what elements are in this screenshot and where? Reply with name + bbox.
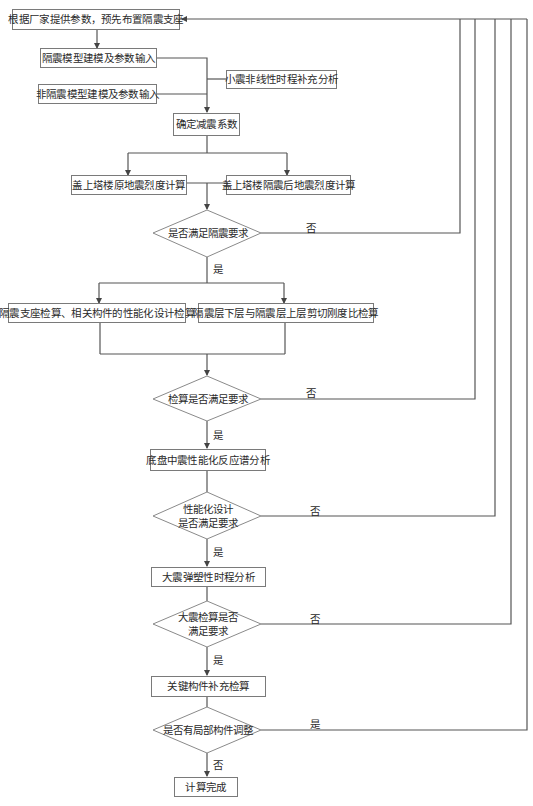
decision-5-text: 是否有局部构件调整 — [163, 723, 253, 737]
node-damping-coefficient: 确定减震系数 — [173, 113, 240, 136]
node-key-member-check: 关键构件补充检算 — [151, 676, 266, 697]
label-no-4: 否 — [310, 611, 320, 626]
node-iso-model: 隔震模型建模及参数输入 — [40, 48, 157, 68]
node-original-intensity: 盖上塔楼原地震烈度计算 — [71, 175, 187, 195]
decision-4-line2: 满足要求 — [178, 624, 238, 638]
node-isolated-intensity: 盖上塔楼隔震后地震烈度计算 — [226, 175, 351, 195]
label-no-1: 否 — [306, 220, 316, 235]
label-no-3: 否 — [310, 503, 320, 518]
connector-lines — [0, 0, 533, 806]
label-yes-4: 是 — [213, 652, 223, 667]
decision-3-text: 性能化设计 是否满足要求 — [178, 502, 238, 530]
decision-1-text: 是否满足隔震要求 — [168, 226, 248, 240]
node-stiffness-ratio-check: 隔震层下层与隔震层上层剪切刚度比检算 — [198, 303, 374, 323]
node-bearing-check: 隔震支座检算、相关构件的性能化设计检算 — [8, 303, 186, 323]
node-large-eq-analysis: 大震弹塑性时程分析 — [151, 567, 266, 587]
label-yes-1: 是 — [213, 261, 223, 276]
label-yes-2: 是 — [213, 427, 223, 442]
decision-3-line1: 性能化设计 — [178, 502, 238, 516]
node-small-eq-analysis: 小震非线性时程补充分析 — [226, 70, 337, 89]
node-start: 根据厂家提供参数，预先布置隔震支座 — [12, 9, 180, 30]
label-no-2: 否 — [306, 385, 316, 400]
label-yes-5: 是 — [310, 716, 320, 731]
label-no-5: 否 — [213, 757, 223, 772]
decision-2-text: 检算是否满足要求 — [168, 392, 248, 406]
node-mid-eq-analysis: 底盘中震性能化反应谱分析 — [150, 449, 266, 471]
decision-4-text: 大震检算是否 满足要求 — [178, 610, 238, 638]
node-noniso-model: 非隔震模型建模及参数输入 — [38, 84, 157, 104]
decision-4-line1: 大震检算是否 — [178, 610, 238, 624]
label-yes-3: 是 — [213, 544, 223, 559]
decision-3-line2: 是否满足要求 — [178, 516, 238, 530]
flowchart: 根据厂家提供参数，预先布置隔震支座 隔震模型建模及参数输入 小震非线性时程补充分… — [0, 0, 533, 806]
node-done: 计算完成 — [174, 777, 238, 797]
